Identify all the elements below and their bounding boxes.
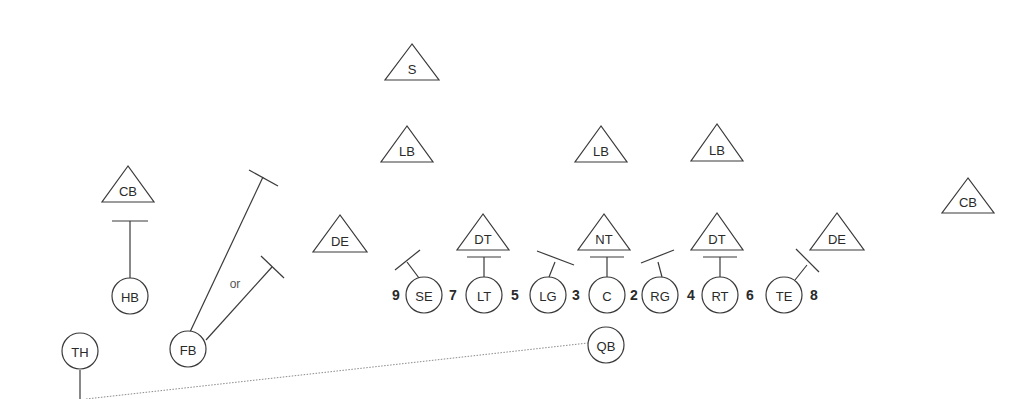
defender-label: DE: [828, 232, 846, 247]
gap-number: 2: [630, 287, 638, 303]
defender-lb: LB: [575, 126, 627, 162]
gap-number: 9: [392, 287, 400, 303]
defender-label: DT: [474, 232, 491, 247]
or-label: or: [230, 277, 241, 291]
offense-lg: LG: [530, 277, 566, 313]
offense-fb: FB: [170, 331, 206, 367]
offense-hb: HB: [112, 278, 148, 314]
offense-label: LT: [477, 289, 491, 304]
defender-dt: DT: [457, 214, 509, 250]
offense-label: TH: [71, 345, 88, 360]
offense-te: TE: [766, 277, 802, 313]
offense-label: C: [602, 289, 611, 304]
play-diagram: or SLBLBLBCBDEDTNTDTDECB HBTHFBSELTLGCRG…: [0, 0, 1024, 399]
offense-label: QB: [597, 339, 616, 354]
defender-label: LB: [399, 144, 415, 159]
lg-block-bar: [537, 251, 574, 265]
defender-nt: NT: [578, 214, 630, 250]
defender-label: CB: [959, 195, 977, 210]
fb-route-long-bar: [249, 170, 278, 186]
te-block-bar: [796, 249, 819, 272]
offense-se: SE: [406, 277, 442, 313]
rg-block-line: [658, 262, 662, 277]
defender-dt: DT: [691, 213, 743, 250]
offense-label: SE: [415, 289, 433, 304]
offense-th: TH: [62, 333, 98, 369]
rg-block-bar: [641, 250, 674, 263]
offense-rt: RT: [702, 277, 738, 313]
defender-de: DE: [810, 213, 864, 250]
gap-number: 4: [687, 287, 695, 303]
defender-cb: CB: [942, 178, 994, 213]
gap-number: 7: [449, 287, 457, 303]
qb-pitch-line: [86, 343, 588, 399]
defender-cb: CB: [102, 166, 154, 202]
defender-lb: LB: [381, 126, 433, 162]
gap-number: 3: [572, 287, 580, 303]
offense-c: C: [589, 277, 625, 313]
gap-number: 5: [511, 287, 519, 303]
defender-de: DE: [313, 215, 367, 252]
defender-label: S: [408, 62, 417, 77]
defender-label: CB: [119, 184, 137, 199]
defender-label: DE: [331, 234, 349, 249]
defender-s: S: [385, 44, 439, 80]
defender-label: DT: [708, 232, 725, 247]
offense-label: FB: [180, 343, 197, 358]
defender-label: NT: [595, 232, 612, 247]
offense-qb: QB: [588, 327, 624, 363]
defender-label: LB: [593, 144, 609, 159]
offense-lt: LT: [466, 277, 502, 313]
offense-rg: RG: [642, 277, 678, 313]
se-block-line: [407, 262, 419, 278]
defender-lb: LB: [691, 124, 743, 161]
offense-label: TE: [776, 289, 793, 304]
defender-label: LB: [709, 143, 725, 158]
offense-label: RT: [711, 289, 728, 304]
lg-block-line: [549, 262, 555, 277]
offense-label: LG: [539, 289, 556, 304]
gap-number: 6: [746, 287, 754, 303]
defense-players: SLBLBLBCBDEDTNTDTDECB: [102, 44, 994, 252]
se-block-bar: [395, 250, 420, 270]
gap-number: 8: [810, 287, 818, 303]
offense-label: RG: [650, 289, 670, 304]
offense-label: HB: [121, 290, 139, 305]
fb-route-long: [190, 177, 263, 332]
te-block-line: [795, 265, 807, 280]
